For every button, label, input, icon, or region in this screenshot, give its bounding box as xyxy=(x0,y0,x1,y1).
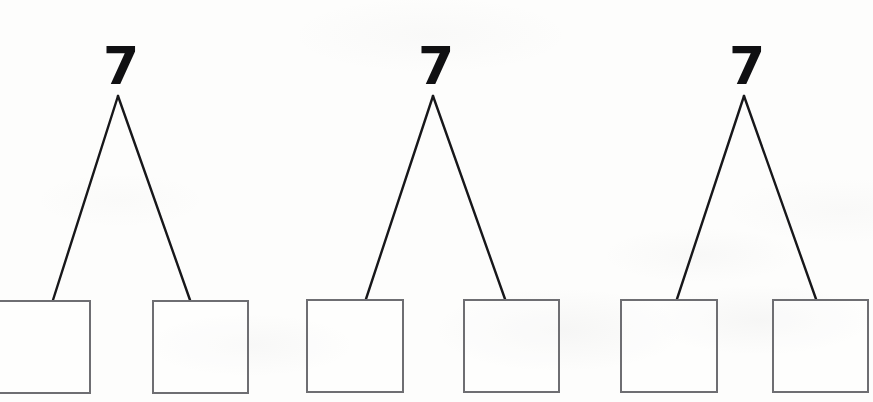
bond-part-box-left[interactable] xyxy=(620,299,718,393)
bond-part-box-left[interactable] xyxy=(306,299,404,393)
bond-whole-number: 7 xyxy=(103,40,139,92)
worksheet-page: 777 xyxy=(0,0,873,402)
bond-whole-number: 7 xyxy=(729,40,765,92)
bond-part-box-right[interactable] xyxy=(463,299,560,393)
bond-part-box-left[interactable] xyxy=(0,300,91,394)
bond-part-box-right[interactable] xyxy=(152,300,249,394)
bond-part-box-right[interactable] xyxy=(772,299,869,393)
number-bond-diagram-layer: 777 xyxy=(0,0,873,402)
bond-whole-number: 7 xyxy=(418,40,454,92)
